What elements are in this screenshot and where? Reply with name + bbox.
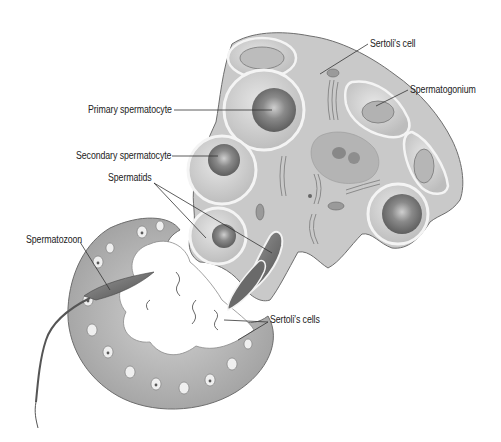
- sertoli-cell-section: [188, 33, 463, 310]
- label-primary-spermatocyte: Primary spermatocyte: [88, 104, 172, 115]
- label-spermatozoon: Spermatozoon: [26, 234, 82, 245]
- label-spermatogonium: Spermatogonium: [410, 84, 476, 95]
- label-spermatids: Spermatids: [108, 172, 152, 183]
- label-secondary-spermatocyte: Secondary spermatocyte: [76, 150, 171, 161]
- label-sertolis-cells: Sertoli's cells: [270, 314, 320, 325]
- spermatogenesis-diagram: [0, 0, 501, 442]
- label-sertoli-cell: Sertoli's cell: [370, 38, 415, 49]
